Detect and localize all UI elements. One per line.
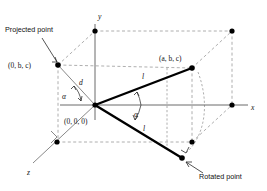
origin-label: (0, 0, 0) [64, 117, 88, 126]
node-y-axis [92, 28, 97, 33]
length-upper-label: l [142, 72, 144, 81]
dashed-rotation-arc [186, 72, 204, 153]
node-z-axis [54, 139, 59, 144]
x-axis-label: x [250, 103, 255, 112]
projected-coord-label: (0, b, c) [8, 61, 32, 70]
node-x-axis [229, 102, 234, 107]
angle-alpha-upper-arrow-top [71, 86, 76, 90]
nodes-group [54, 28, 234, 160]
rotation-arc-arrowhead [181, 147, 189, 153]
rotated-point-label: Rotated point [199, 172, 242, 181]
node-origin [92, 102, 97, 107]
projected-point-leader [42, 38, 57, 62]
y-axis-label: y [97, 12, 102, 21]
vectors-group [95, 68, 192, 158]
dashed-projected-to-y [58, 31, 95, 65]
projected-point-label: Projected point [5, 25, 53, 34]
node-rotated-point [179, 155, 185, 161]
dashed-projected-to-source [58, 65, 192, 68]
labels-group: Projected point (0, b, c) (a, b, c) (0, … [5, 12, 255, 181]
node-front-bottom [189, 139, 194, 144]
length-lower-label: l [143, 124, 145, 133]
angle-alpha-upper-label: α [62, 92, 67, 101]
z-axis-label: z [26, 168, 30, 177]
source-coord-label: (a, b, c) [159, 54, 182, 63]
dashed-source-to-topright [192, 31, 232, 68]
z-axis [33, 105, 95, 163]
rotation-diagram: Projected point (0, b, c) (a, b, c) (0, … [0, 0, 267, 191]
distance-d-label: d [79, 78, 83, 87]
dashed-frontbottom-to-x [192, 105, 232, 142]
node-top-right [229, 28, 234, 33]
figure-canvas: Projected point (0, b, c) (a, b, c) (0, … [0, 0, 267, 191]
node-source-point [189, 65, 195, 71]
node-projected-point [55, 62, 61, 68]
rotated-point-arrowhead [186, 162, 192, 167]
